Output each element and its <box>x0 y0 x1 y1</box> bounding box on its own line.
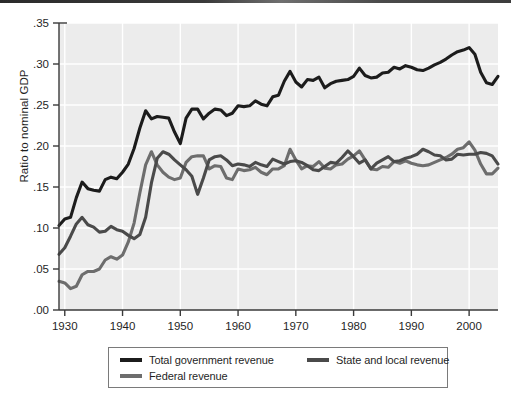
y-tick-label: .00 <box>33 304 49 316</box>
y-tick-label: .10 <box>33 222 49 234</box>
legend-swatch-total <box>120 358 142 362</box>
y-tick-label: .05 <box>33 263 49 275</box>
figure-container: Ratio to nominal GDP .00.05.10.15.20.25.… <box>0 0 511 401</box>
x-tick-label: 1960 <box>225 320 251 332</box>
y-tick-label: .25 <box>33 99 49 111</box>
x-tick-label: 1940 <box>110 320 136 332</box>
x-tick-label: 1970 <box>283 320 309 332</box>
x-tick-label: 1990 <box>399 320 425 332</box>
legend-item-federal[interactable]: Federal revenue <box>120 370 228 382</box>
legend-swatch-federal <box>120 374 142 378</box>
legend-item-total[interactable]: Total government revenue <box>120 354 274 366</box>
y-tick-label: .20 <box>33 140 49 152</box>
y-tick-label: .15 <box>33 181 49 193</box>
x-tick-label: 1930 <box>52 320 78 332</box>
legend-swatch-state-local <box>307 358 329 362</box>
x-tick-label: 1980 <box>341 320 367 332</box>
line-chart-plot: .00.05.10.15.20.25.30.351930194019501960… <box>0 0 511 345</box>
x-tick-label: 1950 <box>168 320 194 332</box>
chart-legend: Total government revenue State and local… <box>108 347 448 388</box>
legend-label-state-local: State and local revenue <box>336 354 449 366</box>
x-tick-label: 2000 <box>456 320 482 332</box>
legend-item-state-local[interactable]: State and local revenue <box>307 354 449 366</box>
legend-label-total: Total government revenue <box>149 354 274 366</box>
y-tick-label: .35 <box>33 17 49 29</box>
legend-label-federal: Federal revenue <box>149 370 228 382</box>
y-tick-label: .30 <box>33 58 49 70</box>
